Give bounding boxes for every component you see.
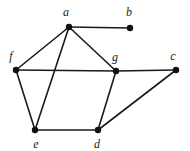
vertex-label-g: g [112,51,118,63]
graph-node-a [66,24,72,30]
edge-f-e [16,70,35,130]
graph-node-g [113,68,119,74]
vertex-label-a: a [63,6,69,18]
graph-node-c [173,67,179,73]
graph-figure: abcdefg [0,0,190,151]
edge-d-g [98,71,116,130]
vertex-label-b: b [126,6,132,18]
vertex-label-d: d [94,138,100,150]
edge-f-g [16,70,116,71]
edge-g-c [116,70,176,71]
vertex-label-e: e [33,138,38,150]
edge-a-b [69,27,130,28]
graph-node-b [127,25,133,31]
edge-layer [16,27,176,130]
vertex-label-c: c [170,50,175,62]
edge-a-g [69,27,116,71]
node-layer [13,24,179,133]
edge-a-e [35,27,69,130]
vertex-label-f: f [9,50,12,62]
graph-node-f [13,67,19,73]
graph-canvas [0,0,190,151]
edge-d-c [98,70,176,130]
edge-a-f [16,27,69,70]
graph-node-d [95,127,101,133]
graph-node-e [32,127,38,133]
